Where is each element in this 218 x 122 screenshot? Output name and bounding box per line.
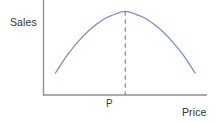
- x-tick-label-optimum-price: P: [106, 99, 113, 109]
- y-axis-label: Sales: [10, 17, 37, 28]
- sales-price-chart: Sales Price P: [0, 0, 218, 122]
- x-axis-label: Price: [182, 107, 206, 118]
